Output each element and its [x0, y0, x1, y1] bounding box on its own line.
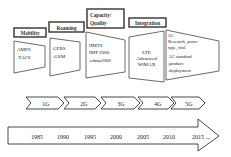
label-box-roaming: Roaming	[49, 22, 84, 32]
label-box-mobility: Mobility	[14, 28, 46, 37]
chevron-3g: 3G	[101, 97, 140, 109]
tech-tacs: .TACS	[17, 55, 31, 60]
stage-1g-technologies: AMPS .TACS	[14, 41, 45, 73]
mobile-generations-diagram: Mobility Roaming Capacity/ Quality Integ…	[0, 0, 231, 157]
chevron-1g: 1G	[26, 97, 64, 109]
year-2015: 2015	[192, 134, 204, 140]
generation-chevrons: 1G 2G 3G 4G 5G	[26, 97, 205, 109]
year-1990: 1990	[57, 134, 69, 140]
timeline-arrow: 1985 1990 1995 2000 2005 2010 2015 ...	[8, 119, 219, 151]
tech-product: .product	[168, 61, 184, 66]
stage-3g-technologies: IIMTS IMT-2000 .cdma2000	[86, 32, 125, 78]
tech-gprs: GPRS	[53, 46, 66, 51]
chevron-5g: 5G	[171, 97, 205, 109]
svg-text:2G: 2G	[80, 101, 88, 107]
tech-imt2000: IMT-2000	[89, 50, 110, 55]
tech-imts: IIMTS	[89, 43, 103, 48]
tech-amps: AMPS	[17, 47, 31, 52]
year-1985: 1985	[31, 134, 43, 140]
year-2010: 2010	[163, 134, 175, 140]
year-2005: 2005	[137, 134, 149, 140]
label-capacity: Capacity/	[90, 12, 112, 18]
tech-advanced: Advanced	[136, 56, 157, 61]
tech-wimax: WiMAX	[138, 62, 156, 67]
svg-text:5G: 5G	[185, 101, 193, 107]
label-box-integration: Integration	[129, 18, 166, 27]
chevron-4g: 4G	[138, 97, 174, 109]
tech-cdma2000: .cdma2000	[89, 58, 112, 63]
label-box-capacity-quality: Capacity/ Quality	[87, 9, 124, 28]
tech-deployment: .deployment	[168, 68, 192, 73]
label-mobility: Mobility	[20, 30, 39, 36]
stage-5g-technologies: 5G Research, proto- type, trial .5G stan…	[166, 30, 219, 80]
year-2000: 2000	[110, 134, 122, 140]
label-roaming: Roaming	[56, 25, 77, 31]
tech-5g-standard: .5G standard	[168, 54, 192, 59]
year-1995: 1995	[84, 134, 96, 140]
tech-lte: LTE	[142, 50, 151, 55]
label-quality: Quality	[90, 20, 107, 26]
svg-text:4G: 4G	[154, 101, 162, 107]
stage-4g-technologies: LTE Advanced WiMAX	[129, 31, 164, 82]
timeline-ellipsis: ...	[206, 134, 211, 140]
label-integration: Integration	[135, 20, 160, 26]
svg-text:1G: 1G	[42, 101, 50, 107]
stage-2g-technologies: GPRS .GSM	[50, 38, 80, 76]
tech-gsm: .GSM	[53, 54, 66, 59]
tech-5g: 5G	[168, 33, 174, 38]
svg-text:3G: 3G	[117, 101, 125, 107]
chevron-2g: 2G	[64, 97, 101, 109]
